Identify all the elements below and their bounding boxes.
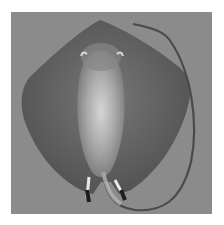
- stingray-photo: [11, 12, 212, 214]
- clasper-left: [87, 190, 89, 202]
- stingray-illustration: [11, 12, 212, 214]
- ray-head: [81, 43, 121, 71]
